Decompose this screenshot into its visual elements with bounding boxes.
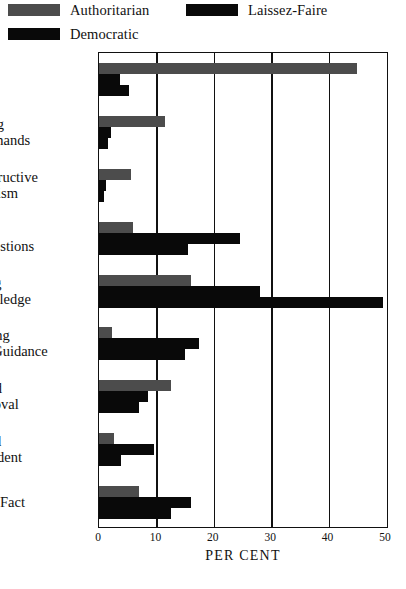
bar-lais [99,74,120,85]
legend-label-democratic: Democratic [70,27,139,41]
category-label: Matter of Fact [0,494,92,510]
bar-lais [99,391,148,402]
category-label-line2: Suggestions [0,238,92,254]
bar-auth [99,433,114,444]
bar-lais [99,286,260,297]
legend-item-democratic: Democratic [8,27,139,41]
bar-demo [99,138,108,149]
legend-label-laissez-faire: Laissez-Faire [248,3,327,17]
bar-demo [99,508,171,519]
legend-item-laissez-faire: Laissez-Faire [186,3,327,17]
x-tick-0: 0 [95,531,101,543]
x-tick-30: 30 [264,531,276,543]
category-label-line1: Matter of Fact [0,494,25,510]
plot-area [98,52,388,528]
category-label: DisruptingCommands [0,116,92,148]
bar-auth [99,327,112,338]
bar-lais [99,497,191,508]
chart-container: Authoritarian Laissez-Faire Democratic O… [0,0,406,589]
category-label-line1: Stimulating [0,327,10,343]
x-tick-10: 10 [150,531,162,543]
bar-lais [99,180,106,191]
bar-demo [99,297,383,308]
category-label-line2: Confident [0,449,92,465]
legend-swatch-laissez-faire [186,4,238,16]
category-label-line2: Self-Guidance [0,343,92,359]
bar-lais [99,338,199,349]
bar-auth [99,486,139,497]
category-label: Orders [0,71,92,87]
bar-demo [99,191,104,202]
category-label: StimulatingSelf-Guidance [0,327,92,359]
category-label-line2: Knowledge [0,291,92,307]
bar-lais [99,444,154,455]
category-label-line1: Extending [0,275,2,291]
bar-group [99,486,387,519]
x-tick-50: 50 [379,531,391,543]
bar-group [99,169,387,202]
bar-group [99,327,387,360]
category-label: ExtendingKnowledge [0,275,92,307]
legend-swatch-democratic [8,28,60,40]
bar-demo [99,244,188,255]
category-label-line1: Jovial and [0,433,1,449]
bar-demo [99,85,129,96]
bar-group [99,275,387,308]
bar-group [99,433,387,466]
legend-swatch-authoritarian [8,4,60,16]
bar-auth [99,380,171,391]
bar-group [99,63,387,96]
bar-group [99,116,387,149]
category-label: GuidingSuggestions [0,222,92,254]
bar-auth [99,63,357,74]
legend-item-authoritarian: Authoritarian [8,3,149,17]
category-label: Jovial andConfident [0,433,92,465]
bar-group [99,222,387,255]
bar-demo [99,455,121,466]
legend-label-authoritarian: Authoritarian [70,3,149,17]
category-label-line2: Criticism [0,185,92,201]
chart-legend: Authoritarian Laissez-Faire Democratic [0,0,406,48]
category-label-line1: Praise and [0,380,2,396]
category-label: NonconstructiveCriticism [0,169,92,201]
category-label-line2: Commands [0,132,92,148]
x-axis-title: PER CENT [98,548,388,564]
x-tick-40: 40 [322,531,334,543]
category-label-line1: Disrupting [0,116,4,132]
x-tick-20: 20 [207,531,219,543]
bar-lais [99,233,240,244]
bar-auth [99,222,133,233]
category-label: Praise andApproval [0,380,92,412]
category-label-line2: Approval [0,396,92,412]
bar-auth [99,116,165,127]
bar-lais [99,127,111,138]
bar-auth [99,275,191,286]
bar-auth [99,169,131,180]
category-label-line1: Nonconstructive [0,169,38,185]
bar-group [99,380,387,413]
bar-demo [99,402,139,413]
bar-demo [99,349,185,360]
